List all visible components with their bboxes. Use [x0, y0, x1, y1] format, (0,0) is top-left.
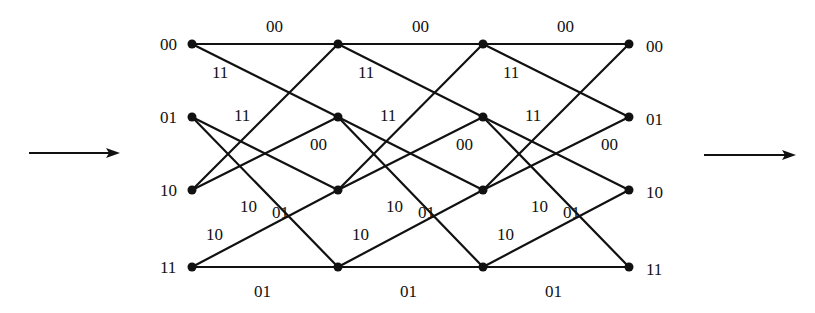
- node-10-col-1: [334, 186, 343, 195]
- node-01-col-3: [625, 113, 634, 122]
- state-label-10-right: 10: [646, 183, 663, 202]
- edge-label-00-to-00-stage-3: 00: [557, 17, 574, 36]
- state-label-11-right: 11: [646, 260, 662, 279]
- output-arrow: [704, 150, 796, 160]
- edge-label-01-to-11-stage-1: 10: [240, 197, 257, 216]
- edge-label-01-to-10-stage-3: 01: [563, 203, 580, 222]
- node-11-col-3: [625, 263, 634, 272]
- state-label-00-right: 00: [646, 37, 663, 56]
- node-11-col-2: [479, 263, 488, 272]
- right-state-labels: 00 01 10 11: [646, 37, 663, 279]
- node-00-col-0: [188, 40, 197, 49]
- edge-label-01-to-10-stage-2: 01: [418, 203, 435, 222]
- edge-label-00-to-01-stage-3: 11: [503, 63, 519, 82]
- node-10-col-3: [625, 186, 634, 195]
- edge-label-10-to-00-stage-1: 11: [234, 106, 250, 125]
- edge-label-00-to-01-stage-1: 11: [212, 63, 228, 82]
- edge-label-11-to-11-stage-3: 01: [545, 282, 562, 301]
- node-01-col-1: [334, 113, 343, 122]
- node-01-col-0: [188, 113, 197, 122]
- edge-label-10-to-00-stage-2: 11: [380, 106, 396, 125]
- edge-label-10-to-01-stage-3: 00: [601, 135, 618, 154]
- node-11-col-1: [334, 263, 343, 272]
- edge-label-11-to-11-stage-1: 01: [254, 282, 271, 301]
- state-label-10-left: 10: [160, 181, 177, 200]
- node-01-col-2: [479, 113, 488, 122]
- node-10-col-2: [479, 186, 488, 195]
- edge-label-10-to-00-stage-3: 11: [525, 106, 541, 125]
- state-label-11-left: 11: [160, 258, 176, 277]
- edge-label-00-to-00-stage-2: 00: [412, 17, 429, 36]
- state-label-00-left: 00: [160, 35, 177, 54]
- edge-label-10-to-01-stage-2: 00: [456, 135, 473, 154]
- node-00-col-3: [625, 40, 634, 49]
- trellis-diagram: 0011011011001001001101101100100100110110…: [0, 0, 815, 313]
- state-label-01-right: 01: [646, 110, 663, 129]
- edge-label-00-to-01-stage-2: 11: [358, 63, 374, 82]
- node-10-col-0: [188, 186, 197, 195]
- edge-label-11-to-10-stage-2: 10: [352, 225, 369, 244]
- edge-label-11-to-10-stage-3: 10: [497, 225, 514, 244]
- trellis-edge-labels: 0011011011001001001101101100100100110110…: [206, 17, 618, 301]
- node-11-col-0: [188, 263, 197, 272]
- edge-label-11-to-11-stage-2: 01: [400, 282, 417, 301]
- edge-label-10-to-01-stage-1: 00: [310, 135, 327, 154]
- input-arrow: [29, 148, 120, 158]
- edge-label-01-to-11-stage-2: 10: [386, 197, 403, 216]
- edge-label-11-to-10-stage-1: 10: [206, 225, 223, 244]
- node-00-col-2: [479, 40, 488, 49]
- node-00-col-1: [334, 40, 343, 49]
- trellis-edges: [192, 44, 629, 267]
- edge-label-01-to-11-stage-3: 10: [531, 197, 548, 216]
- state-label-01-left: 01: [160, 108, 177, 127]
- edge-label-00-to-00-stage-1: 00: [266, 17, 283, 36]
- left-state-labels: 00 01 10 11: [160, 35, 177, 277]
- edge-label-01-to-10-stage-1: 01: [272, 203, 289, 222]
